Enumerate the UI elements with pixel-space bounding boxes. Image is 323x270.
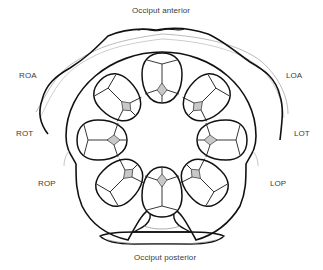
head-lot	[197, 120, 247, 160]
head-rot	[77, 120, 127, 160]
pelvis-illustration	[0, 0, 323, 270]
fetal-heads	[77, 53, 247, 217]
label-loa: LOA	[286, 71, 302, 80]
head-op	[142, 167, 182, 217]
label-lop: LOP	[270, 179, 286, 188]
pelvis-diagram: Occiput anterior ROA ROT ROP LOA LOT LOP…	[0, 0, 323, 270]
label-rop: ROP	[38, 179, 56, 188]
label-rot: ROT	[16, 129, 33, 138]
label-occiput-anterior: Occiput anterior	[132, 6, 190, 15]
label-occiput-posterior: Occiput posterior	[134, 253, 196, 262]
head-oa	[142, 53, 182, 103]
label-lot: LOT	[294, 129, 310, 138]
label-roa: ROA	[19, 71, 37, 80]
